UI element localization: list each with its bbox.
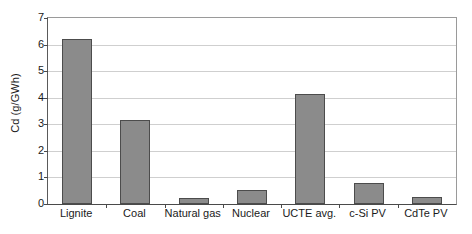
x-axis-tick-label: Coal [123,206,146,220]
y-axis-tick [44,151,48,152]
x-axis-tick-label: CdTe PV [404,206,447,220]
gridline [48,71,456,72]
gridline [48,124,456,125]
y-axis-tick [44,98,48,99]
bar [179,198,209,204]
bar-chart: Cd (g/GWh) 01234567 LigniteCoalNatural g… [0,0,472,234]
y-axis-tick-label: 4 [26,91,44,102]
x-axis-tick-label: Lignite [60,206,92,220]
gridline [48,45,456,46]
bar [354,183,384,204]
gridline [48,151,456,152]
bar [62,39,92,204]
y-axis-tick [44,45,48,46]
y-axis-tick-labels: 01234567 [26,0,44,234]
x-axis-tick-labels: LigniteCoalNatural gasNuclearUCTE avg.c-… [47,206,457,226]
x-axis-tick-label: UCTE avg. [282,206,336,220]
y-axis-tick-label: 0 [26,198,44,209]
bar [295,94,325,204]
plot-area [47,17,457,205]
y-axis-tick-label: 7 [26,12,44,23]
y-axis-title-text: Cd (g/GWh) [9,73,21,133]
y-axis-title: Cd (g/GWh) [2,0,28,205]
x-axis-tick-label: c-Si PV [349,206,386,220]
y-axis-tick-label: 1 [26,171,44,182]
x-axis-tick-label: Nuclear [232,206,270,220]
y-axis-tick-label: 3 [26,118,44,129]
y-axis-tick [44,71,48,72]
y-axis-tick-label: 2 [26,144,44,155]
gridline [48,177,456,178]
y-axis-tick-label: 6 [26,38,44,49]
y-axis-tick [44,177,48,178]
y-axis-tick [44,18,48,19]
bar [120,120,150,204]
y-axis-tick [44,124,48,125]
y-axis-tick [44,204,48,205]
x-axis-tick-label: Natural gas [165,206,221,220]
bar [237,190,267,204]
bar [412,197,442,204]
y-axis-tick-label: 5 [26,65,44,76]
gridline [48,98,456,99]
